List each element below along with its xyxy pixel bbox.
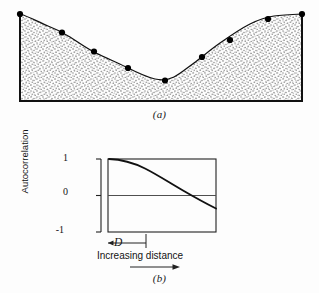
panel-a-caption: (a) xyxy=(0,108,319,120)
x-axis-label: Increasing distance xyxy=(60,250,220,261)
y-axis-label: Autocorrelation xyxy=(19,118,30,206)
sample-point xyxy=(17,11,23,17)
sample-point xyxy=(265,16,271,22)
sample-point xyxy=(227,37,233,43)
increasing-distance-arrow xyxy=(130,264,180,269)
figure-panel-b: Autocorrelation 1 0 -1 D Increasing dist… xyxy=(0,138,319,278)
sample-point xyxy=(162,77,168,83)
autocorrelation-curve xyxy=(109,159,216,209)
y-tick-label-0: 0 xyxy=(52,186,68,197)
sample-point xyxy=(59,29,65,35)
sample-point xyxy=(199,54,205,60)
y-axis xyxy=(96,159,101,232)
sample-point xyxy=(125,65,131,71)
panel-b-caption: (b) xyxy=(0,272,319,284)
sample-point xyxy=(91,48,97,54)
profile-fill-area xyxy=(20,14,302,101)
y-tick-label-1: 1 xyxy=(52,152,68,163)
d-dimension-label: D xyxy=(114,236,122,248)
sample-point xyxy=(299,11,305,17)
y-tick-label-neg1: -1 xyxy=(48,224,64,235)
